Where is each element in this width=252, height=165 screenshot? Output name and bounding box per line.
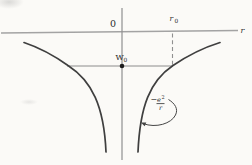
w0-axis-dot — [120, 64, 125, 69]
origin-label: 0 — [110, 18, 116, 29]
w0-label-sub: 0 — [124, 57, 128, 63]
formula-denominator-r: r — [159, 104, 163, 112]
potential-curve-left-branch — [24, 43, 106, 153]
diagram-canvas: 0 r r 0 W 0 − e 2 r — [0, 0, 252, 165]
r0-label-base: r — [170, 14, 174, 23]
potential-diagram: 0 r r 0 W 0 − e 2 r — [0, 0, 252, 165]
r0-label-sub: 0 — [175, 18, 179, 24]
formula-arrowhead-icon — [141, 122, 147, 126]
formula-exponent-2: 2 — [162, 94, 165, 100]
x-axis-line — [1, 31, 238, 34]
x-axis-label: r — [241, 26, 246, 35]
